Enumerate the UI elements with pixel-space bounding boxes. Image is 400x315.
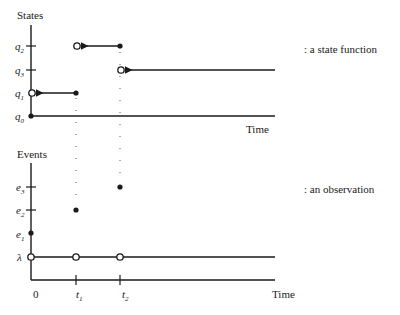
label-e2: e2 xyxy=(16,204,25,219)
events-time-label: Time xyxy=(272,288,295,300)
events-title: Events xyxy=(17,148,47,160)
q1-open-dot xyxy=(29,90,35,96)
label-q3: q3 xyxy=(15,64,25,79)
lambda-open-dot-t1 xyxy=(73,254,79,260)
lambda-open-dot-t2 xyxy=(117,254,123,260)
label-e1: e1 xyxy=(16,228,24,243)
states-time-label: Time xyxy=(246,123,269,135)
states-title: States xyxy=(17,9,43,21)
event-e2-at-t1 xyxy=(73,207,78,212)
label-q1: q1 xyxy=(15,87,24,102)
event-e3-at-t2 xyxy=(117,184,122,189)
state-function-annotation: : a state function xyxy=(304,43,378,55)
label-q2: q2 xyxy=(15,40,25,55)
time-tick-0: 0 xyxy=(33,288,39,300)
state-event-diagram: States q2 q3 q1 q0 Time : a state functi… xyxy=(0,0,400,315)
time-tick-t2: t2 xyxy=(122,288,129,303)
q0-start-dot xyxy=(28,113,33,118)
label-q0: q0 xyxy=(15,110,25,125)
q2-closed-dot xyxy=(117,43,122,48)
q1-closed-dot xyxy=(73,90,78,95)
q2-open-dot xyxy=(74,43,80,49)
q3-open-dot xyxy=(118,67,124,73)
event-e1-at-0 xyxy=(28,230,33,235)
time-tick-t1: t1 xyxy=(76,288,83,303)
label-lambda: λ xyxy=(16,251,22,263)
label-e3: e3 xyxy=(16,181,25,196)
lambda-open-dot-0 xyxy=(28,254,34,260)
observation-annotation: : an observation xyxy=(304,183,375,195)
